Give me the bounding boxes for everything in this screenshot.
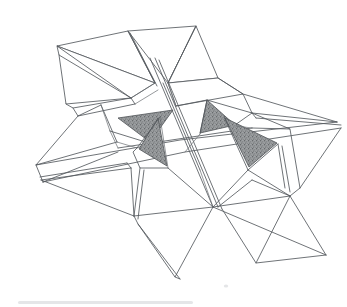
figure-canvas: Geometric polyhedral line drawing Techni… <box>0 0 347 307</box>
paper-smudge-bottom <box>18 301 193 304</box>
polyhedral-line-drawing <box>0 0 347 307</box>
paper-speck <box>224 284 228 287</box>
